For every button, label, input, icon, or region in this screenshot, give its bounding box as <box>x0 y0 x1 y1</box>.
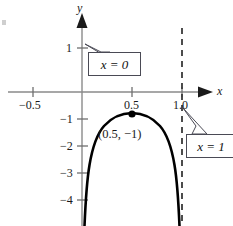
maximum-point-label: (0.5, −1) <box>98 128 142 141</box>
y-tick-label--1: −1 <box>60 113 73 125</box>
y-tick-label--2: −2 <box>60 140 73 152</box>
x-tick-label-1.0: 1.0 <box>173 99 188 111</box>
y-tick-label--4: −4 <box>60 194 73 206</box>
x-axis-arrowhead <box>198 87 213 98</box>
y-axis-label: y <box>77 2 82 14</box>
callout-label-x-equals-0: x = 0 <box>88 52 141 76</box>
x-axis-label: x <box>217 85 222 97</box>
y-tick-label-1: 1 <box>66 42 72 54</box>
y-tick-label--3: −3 <box>60 167 73 179</box>
x-tick-label-0.5: 0.5 <box>124 99 139 111</box>
plot-canvas <box>0 0 233 226</box>
y-axis-arrowhead <box>77 13 88 28</box>
x-tick-label--0.5: −0.5 <box>19 99 41 111</box>
callout-label-x-equals-1: x = 1 <box>186 134 233 158</box>
function-graph-figure: −0.5 0.5 1.0 1 −1 −2 −3 −4 x y (0.5, −1)… <box>0 0 233 226</box>
